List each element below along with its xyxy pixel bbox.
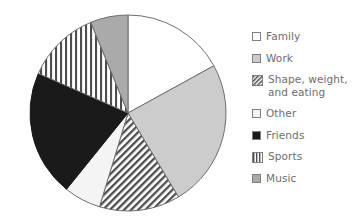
legend-swatch-icon xyxy=(252,174,261,183)
legend-item[interactable]: Family xyxy=(252,30,359,43)
legend-item-label: Other xyxy=(266,107,296,120)
legend-swatch-icon xyxy=(252,131,261,140)
legend-item-label: Work xyxy=(266,52,293,65)
legend-item-label: Friends xyxy=(266,129,304,142)
legend-item-label: Music xyxy=(266,172,296,185)
pie-chart-figure: FamilyWorkShape, weight, and eatingOther… xyxy=(0,0,359,220)
legend-item-label: Shape, weight, and eating xyxy=(268,73,348,98)
pie-chart-svg xyxy=(0,0,240,220)
pie-slices-group xyxy=(30,15,226,211)
pie-chart-plot-area xyxy=(0,0,240,220)
legend-item[interactable]: Shape, weight, and eating xyxy=(252,73,359,98)
legend-item[interactable]: Other xyxy=(252,107,359,120)
legend-swatch-icon xyxy=(252,109,261,118)
legend-item-label: Sports xyxy=(268,150,302,163)
legend-item[interactable]: Sports xyxy=(252,150,359,163)
legend-swatch-icon xyxy=(252,54,261,63)
chart-legend: FamilyWorkShape, weight, and eatingOther… xyxy=(252,30,359,205)
legend-swatch-icon xyxy=(252,75,263,86)
legend-swatch-icon xyxy=(252,152,263,163)
legend-item[interactable]: Music xyxy=(252,172,359,185)
legend-item-label: Family xyxy=(266,30,300,43)
legend-item[interactable]: Friends xyxy=(252,129,359,142)
legend-item[interactable]: Work xyxy=(252,52,359,65)
legend-swatch-icon xyxy=(252,32,261,41)
